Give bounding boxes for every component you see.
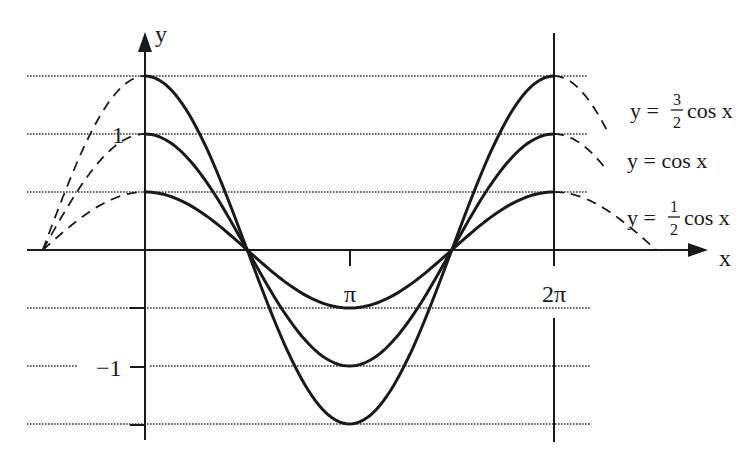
legend-half-cos: y = 1 2 cos x (627, 198, 730, 238)
legend-numerator: 3 (673, 91, 681, 108)
legend-text: y = cos x (627, 148, 707, 173)
cosine-amplitude-chart: y x π 2π 1 −1 y = 3 2 cos x y = cos x y … (0, 0, 754, 461)
legend-denominator: 2 (670, 221, 678, 238)
x-axis-label: x (719, 245, 731, 271)
legend-suffix: cos x (687, 98, 733, 123)
legend-numerator: 1 (670, 198, 678, 215)
axes (27, 32, 708, 442)
curve-dashed-right-1 (554, 134, 607, 171)
curve-dashed-left-0 (43, 76, 145, 250)
y-tick-label-neg1: −1 (96, 355, 122, 381)
legend-denominator: 2 (673, 114, 681, 131)
legend-cos: y = cos x (627, 148, 707, 173)
legend-prefix: y = (630, 98, 659, 123)
x-tick-label-2pi: 2π (542, 281, 566, 307)
legend-suffix: cos x (684, 205, 730, 230)
x-axis-arrow-icon (688, 243, 708, 257)
legend-three-halves-cos: y = 3 2 cos x (630, 91, 733, 131)
curve-dashed-left-2 (43, 192, 145, 250)
y-axis-arrow-icon (138, 32, 152, 52)
y-axis-label: y (155, 21, 167, 47)
curve-dashed-right-0 (554, 76, 607, 131)
legend-prefix: y = (627, 205, 656, 230)
y-tick-label-1: 1 (112, 122, 124, 148)
x-tick-label-pi: π (344, 281, 356, 307)
